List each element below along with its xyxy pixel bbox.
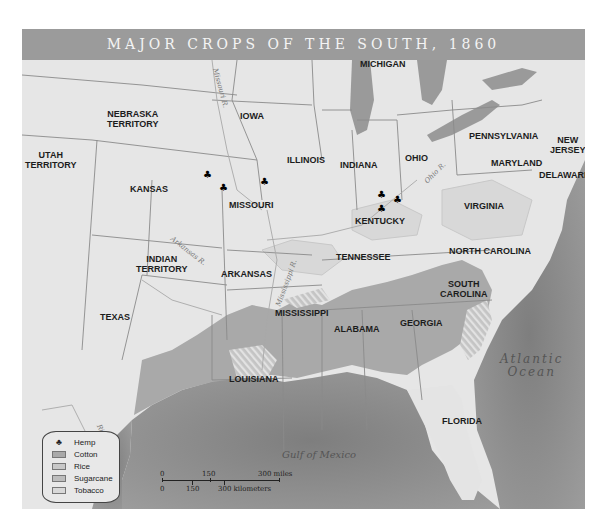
label-illinois: ILLINOIS <box>287 155 325 165</box>
label-alabama: ALABAMA <box>334 324 380 334</box>
scale-tick <box>210 478 211 482</box>
scale-bar: 0 150 300 miles 0 150 300 kilometers <box>162 469 302 499</box>
hemp-leaf-icon: ♣ <box>260 177 269 187</box>
label-nebraska-territory: NEBRASKA TERRITORY <box>107 109 159 129</box>
label-north-carolina: NORTH CAROLINA <box>449 246 531 256</box>
hemp-leaf-icon: ♣ <box>52 437 66 447</box>
label-florida: FLORIDA <box>442 416 482 426</box>
label-tennessee: TENNESSEE <box>336 252 391 262</box>
scale-line <box>162 480 280 481</box>
label-mississippi: MISSISSIPPI <box>275 308 329 318</box>
hemp-leaf-icon: ♣ <box>377 190 386 200</box>
map-title: MAJOR CROPS OF THE SOUTH, 1860 <box>22 29 585 60</box>
label-iowa: IOWA <box>240 111 264 121</box>
label-gulf-of-mexico: Gulf of Mexico <box>282 449 356 460</box>
label-ohio: OHIO <box>405 153 428 163</box>
legend-item-cotton: Cotton <box>49 448 119 460</box>
hemp-leaf-icon: ♣ <box>393 195 402 205</box>
hemp-leaf-icon: ♣ <box>377 204 386 214</box>
legend-item-hemp: ♣ Hemp <box>49 436 119 448</box>
label-indiana: INDIANA <box>340 160 378 170</box>
label-indian-territory: INDIAN TERRITORY <box>136 254 188 274</box>
map-frame: MAJOR CROPS OF THE SOUTH, 1860 <box>22 29 585 509</box>
label-new-jersey: NEW JERSEY <box>550 135 585 155</box>
label-virginia: VIRGINIA <box>464 201 504 211</box>
label-kentucky: KENTUCKY <box>355 216 405 226</box>
label-louisiana: LOUISIANA <box>229 374 279 384</box>
rice-swatch <box>52 463 66 470</box>
cotton-swatch <box>52 451 66 458</box>
hemp-leaf-icon: ♣ <box>203 170 212 180</box>
hemp-leaf-icon: ♣ <box>219 183 228 193</box>
label-south-carolina: SOUTH CAROLINA <box>440 279 488 299</box>
tobacco-swatch <box>52 487 66 494</box>
label-michigan: MICHIGAN <box>360 59 406 69</box>
label-arkansas: ARKANSAS <box>221 269 272 279</box>
label-georgia: GEORGIA <box>400 318 443 328</box>
label-utah-territory: UTAH TERRITORY <box>25 150 77 170</box>
legend-item-sugarcane: Sugarcane <box>49 472 119 484</box>
scale-tick <box>279 478 280 482</box>
legend-item-rice: Rice <box>49 460 119 472</box>
label-maryland: MARYLAND <box>491 158 542 168</box>
label-missouri: MISSOURI <box>229 200 274 210</box>
label-texas: TEXAS <box>100 312 130 322</box>
scale-tick <box>162 478 163 482</box>
label-delaware: DELAWARE <box>539 170 585 180</box>
map-legend: ♣ Hemp Cotton Rice Sugarcane Tobacco <box>42 431 120 503</box>
label-atlantic-ocean: Atlantic Ocean <box>500 353 563 379</box>
label-pennsylvania: PENNSYLVANIA <box>469 131 538 141</box>
legend-item-tobacco: Tobacco <box>49 484 119 496</box>
sugarcane-swatch <box>52 475 66 482</box>
label-kansas: KANSAS <box>130 184 168 194</box>
